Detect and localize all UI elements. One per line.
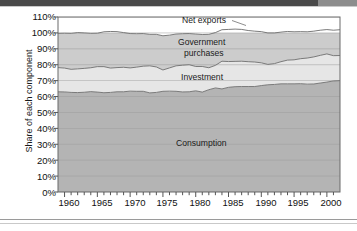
x-tick-label: 1960 xyxy=(52,197,86,208)
x-tick-label: 1995 xyxy=(281,197,315,208)
x-tick-label: 1980 xyxy=(183,197,217,208)
area-consumption xyxy=(58,81,340,192)
x-tick-label: 1990 xyxy=(249,197,283,208)
x-tick-label: 1965 xyxy=(85,197,119,208)
x-tick-label: 1970 xyxy=(118,197,152,208)
x-tick-label: 2000 xyxy=(314,197,348,208)
label-consumption: Consumption xyxy=(176,138,227,148)
label-government-line2: purchases xyxy=(184,48,224,58)
x-tick-label: 1975 xyxy=(150,197,184,208)
label-investment: Investment xyxy=(181,72,223,82)
figure-container: Share of each component 0% 10% 20% 30% 4… xyxy=(0,0,357,231)
x-tick-label: 1985 xyxy=(216,197,250,208)
label-net-exports: Net exports xyxy=(182,15,226,25)
y-tick-marks xyxy=(54,17,58,192)
label-government-line1: Government xyxy=(178,37,225,47)
